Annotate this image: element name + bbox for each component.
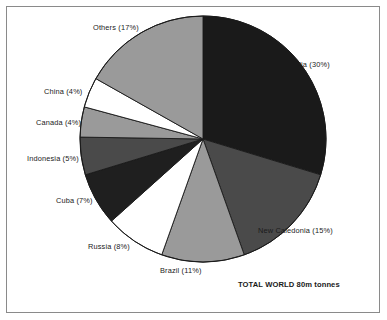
pie-label-others: Others (17%) [93,24,139,31]
pie-label-china: China (4%) [44,88,82,95]
pie-label-australia: Australia (30%) [277,61,330,68]
pie-label-canada: Canada (4%) [36,119,81,126]
pie-label-cuba: Cuba (7%) [56,197,93,204]
pie-chart-figure: Australia (30%) New Caledonia (15%) Braz… [0,0,387,320]
total-world-caption: TOTAL WORLD 80m tonnes [238,280,340,289]
pie-label-new-caledonia: New Caledonia (15%) [258,227,333,234]
pie-label-indonesia: Indonesia (5%) [27,155,79,162]
pie-label-russia: Russia (8%) [88,243,130,250]
pie-label-brazil: Brazil (11%) [160,267,202,274]
